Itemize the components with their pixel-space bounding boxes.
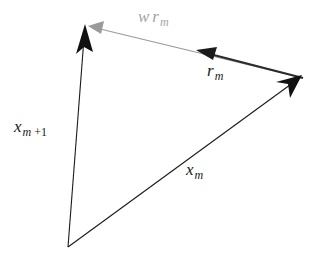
vector-x-m-shaft xyxy=(68,82,294,247)
label-x-m-subscript: m xyxy=(195,168,204,182)
label-r-m-subscript: m xyxy=(215,69,224,83)
vector-canvas xyxy=(0,0,320,271)
label-w-r-m: wrm xyxy=(138,8,169,25)
vector-x-m xyxy=(68,75,302,247)
label-x-m-plus-1-increment: +1 xyxy=(34,125,47,139)
vector-w-r-m-arrowhead xyxy=(88,21,104,34)
vector-x-m-plus-1 xyxy=(68,24,93,247)
label-r-m-symbol: r xyxy=(207,61,214,80)
label-x-m: xm xyxy=(186,161,203,178)
vector-x-m-plus-1-arrowhead xyxy=(76,24,93,54)
label-x-m-symbol: x xyxy=(186,160,194,179)
label-x-m-plus-1-subscript: m xyxy=(23,125,32,139)
label-x-m-plus-1-symbol: x xyxy=(14,117,22,136)
vector-x-m-plus-1-shaft xyxy=(68,38,84,247)
label-w-r-m-symbol: r xyxy=(152,7,159,26)
vector-diagram-figure: wrm rm xm+1 xm xyxy=(0,0,320,271)
label-r-m: rm xyxy=(207,62,223,79)
label-w-r-m-coefficient: w xyxy=(138,7,149,26)
vector-x-m-arrowhead xyxy=(276,75,302,98)
label-w-r-m-subscript: m xyxy=(160,15,169,29)
label-x-m-plus-1: xm+1 xyxy=(14,118,47,135)
